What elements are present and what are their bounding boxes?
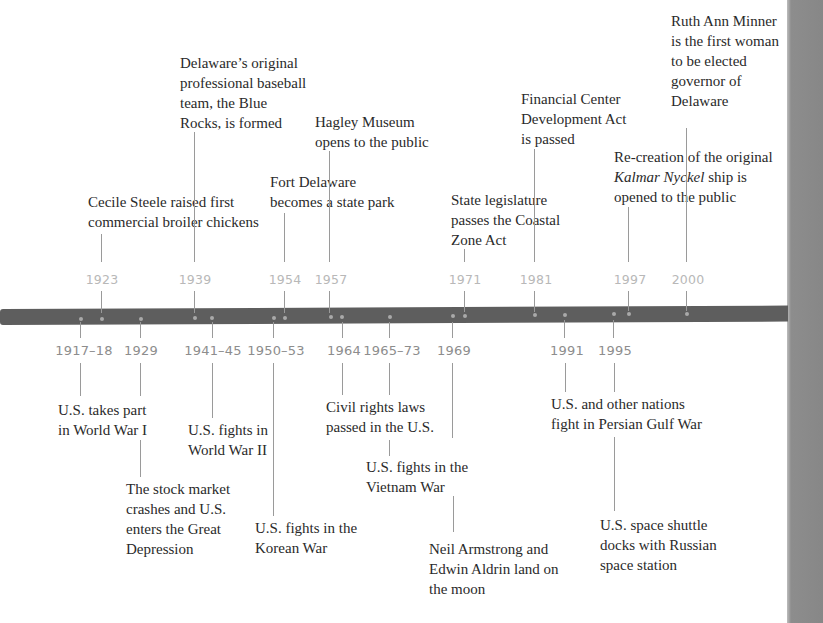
timeline-dot-2000: [685, 312, 689, 316]
connector-line: [212, 322, 213, 338]
delaware-year-2000: 2000: [672, 272, 705, 287]
delaware-year-1939: 1939: [179, 272, 212, 287]
connector-line: [389, 440, 390, 456]
timeline-dot-1950: [272, 316, 276, 320]
us-year-1969: 1969: [437, 343, 471, 358]
us-event-1991: U.S. and other nations fight in Persian …: [551, 394, 702, 434]
connector-line: [464, 291, 465, 312]
delaware-event-1997: Re-creation of the original Kalmar Nycke…: [614, 147, 773, 207]
connector-line: [628, 207, 629, 262]
connector-line: [284, 291, 285, 313]
connector-line: [140, 363, 141, 396]
delaware-year-1981: 1981: [520, 272, 553, 287]
connector-line: [342, 363, 343, 395]
connector-line: [686, 291, 687, 311]
timeline-bar: [0, 306, 788, 325]
timeline-dot-1969: [451, 314, 455, 318]
us-event-1969: Neil Armstrong and Edwin Aldrin land on …: [429, 539, 559, 599]
connector-line: [80, 322, 81, 338]
delaware-year-1923: 1923: [86, 272, 119, 287]
connector-line: [614, 363, 615, 392]
us-year-1941-45: 1941–45: [184, 343, 242, 358]
us-year-1917-18: 1917–18: [55, 343, 113, 358]
us-year-1964: 1964: [327, 343, 361, 358]
delaware-event-1923: Cecile Steele raised first commercial br…: [88, 192, 259, 232]
us-event-1941-45: U.S. fights in World War II: [188, 420, 268, 460]
connector-line: [613, 320, 614, 338]
delaware-event-1954: Fort Delaware becomes a state park: [270, 172, 395, 212]
connector-line: [101, 291, 102, 313]
connector-line: [80, 363, 81, 396]
connector-line: [565, 363, 566, 392]
connector-line: [534, 149, 535, 262]
us-event-1964: Civil rights laws passed in the U.S.: [326, 397, 434, 437]
connector-line: [273, 322, 274, 338]
timeline-dot-1981: [533, 313, 537, 317]
us-year-1950-53: 1950–53: [247, 343, 305, 358]
timeline-dot-1941: [210, 316, 214, 320]
connector-line: [342, 322, 343, 338]
connector-line: [686, 128, 687, 262]
us-year-1929: 1929: [124, 343, 158, 358]
us-event-1950-53: U.S. fights in the Korean War: [255, 518, 357, 558]
timeline-dot-1995: [612, 312, 616, 316]
timeline-dot-1965: [388, 315, 392, 319]
timeline-dot-1971: [463, 314, 467, 318]
timeline-dot-1939: [193, 316, 197, 320]
delaware-year-1954: 1954: [269, 272, 302, 287]
us-year-1991: 1991: [550, 343, 584, 358]
delaware-event-1971: State legislature passes the Coastal Zon…: [451, 190, 560, 250]
connector-line: [140, 440, 141, 477]
delaware-event-1939: Delaware’s original professional basebal…: [180, 53, 306, 133]
ship-name: Kalmar Nyckel: [614, 169, 704, 185]
connector-line: [464, 249, 465, 262]
connector-line: [389, 363, 390, 395]
connector-line: [101, 234, 102, 262]
connector-line: [140, 322, 141, 338]
timeline-dot-1964: [340, 315, 344, 319]
delaware-event-1997-prefix: Re-creation of the original: [614, 149, 773, 165]
us-year-1965-73: 1965–73: [363, 343, 421, 358]
connector-line: [452, 363, 453, 438]
us-event-1965-73: U.S. fights in the Vietnam War: [366, 457, 468, 497]
connector-line: [628, 291, 629, 311]
connector-line: [564, 320, 565, 338]
timeline-dot-1957: [329, 315, 333, 319]
delaware-year-1971: 1971: [449, 272, 482, 287]
connector-line: [194, 291, 195, 313]
connector-line: [194, 132, 195, 262]
us-year-1995: 1995: [598, 343, 632, 358]
timeline-dot-1923: [100, 317, 104, 321]
connector-line: [329, 151, 330, 262]
delaware-year-1997: 1997: [614, 272, 647, 287]
delaware-event-1957: Hagley Museum opens to the public: [315, 112, 429, 152]
connector-line: [534, 291, 535, 312]
timeline-dot-1991: [563, 313, 567, 317]
timeline-dot-1929: [139, 317, 143, 321]
timeline-dot-1917: [79, 317, 83, 321]
delaware-event-2000: Ruth Ann Minner is the first woman to be…: [671, 11, 779, 111]
timeline-dot-1997: [627, 312, 631, 316]
connector-line: [452, 322, 453, 338]
page-edge: [787, 0, 823, 623]
connector-line: [453, 496, 454, 532]
us-event-1995: U.S. space shuttle docks with Russian sp…: [600, 515, 717, 575]
us-event-1929: The stock market crashes and U.S. enters…: [126, 479, 230, 559]
us-event-1917-18: U.S. takes part in World War I: [58, 400, 147, 440]
delaware-year-1957: 1957: [315, 272, 348, 287]
delaware-event-1981: Financial Center Development Act is pass…: [521, 89, 626, 149]
connector-line: [212, 363, 213, 418]
connector-line: [614, 437, 615, 511]
connector-line: [273, 363, 274, 516]
connector-line: [329, 291, 330, 313]
timeline-dot-1954: [283, 316, 287, 320]
connector-line: [284, 213, 285, 262]
connector-line: [389, 322, 390, 338]
